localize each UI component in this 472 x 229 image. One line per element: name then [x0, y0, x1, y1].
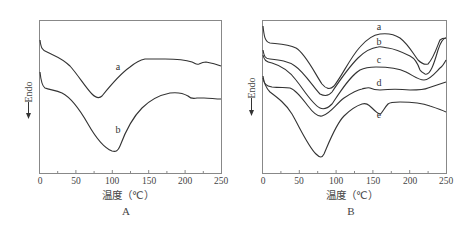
y-axis-label-b: Endo — [246, 77, 257, 116]
y-axis-label-a: Endo — [23, 81, 34, 119]
panel-b: 0 50 100 150 200 250 温度（℃） B Endo a b c … — [246, 21, 453, 218]
x-ticks-b — [263, 170, 429, 173]
curve-label-e: e — [377, 109, 382, 120]
tick-label: 100 — [105, 176, 120, 186]
curve-label-d: d — [377, 77, 382, 88]
tick-label: 150 — [366, 176, 381, 186]
curve-label-c: c — [377, 54, 382, 65]
panel-label-a: A — [122, 205, 130, 217]
tick-label: 50 — [71, 176, 81, 186]
curve-label-b: b — [116, 124, 121, 135]
curve-label-a: a — [116, 61, 121, 72]
tick-label: 50 — [294, 176, 304, 186]
arrow-head-icon — [249, 110, 254, 116]
tick-label: 200 — [178, 176, 193, 186]
svg-text:Endo: Endo — [246, 77, 257, 98]
plot-frame-a — [40, 21, 222, 174]
curve-label-b: b — [377, 36, 382, 47]
figure: 0 50 100 150 200 250 温度（℃） A Endo a b — [0, 0, 472, 229]
tick-label: 150 — [142, 176, 157, 186]
x-axis-title-b: 温度（℃） — [326, 189, 378, 201]
curve-d-panel-b — [263, 78, 446, 116]
arrow-head-icon — [26, 113, 31, 119]
x-tick-labels-a: 0 50 100 150 200 250 — [38, 176, 229, 186]
panel-a: 0 50 100 150 200 250 温度（℃） A Endo a b — [23, 21, 228, 218]
x-axis-title-a: 温度（℃） — [102, 189, 154, 201]
tick-label: 0 — [38, 176, 43, 186]
curve-label-a: a — [377, 21, 382, 32]
panel-label-b: B — [347, 205, 354, 217]
tick-label: 250 — [439, 176, 454, 186]
tick-label: 100 — [329, 176, 344, 186]
tick-label: 250 — [214, 176, 229, 186]
x-ticks-a — [40, 170, 204, 173]
svg-text:Endo: Endo — [23, 81, 34, 102]
curve-b-panel-a — [40, 72, 221, 151]
curve-b-panel-b — [263, 38, 446, 96]
curve-a-panel-a — [40, 40, 221, 98]
tick-label: 200 — [403, 176, 418, 186]
tick-label: 0 — [261, 176, 266, 186]
plot-frame-b — [263, 21, 447, 174]
x-tick-labels-b: 0 50 100 150 200 250 — [261, 176, 454, 186]
